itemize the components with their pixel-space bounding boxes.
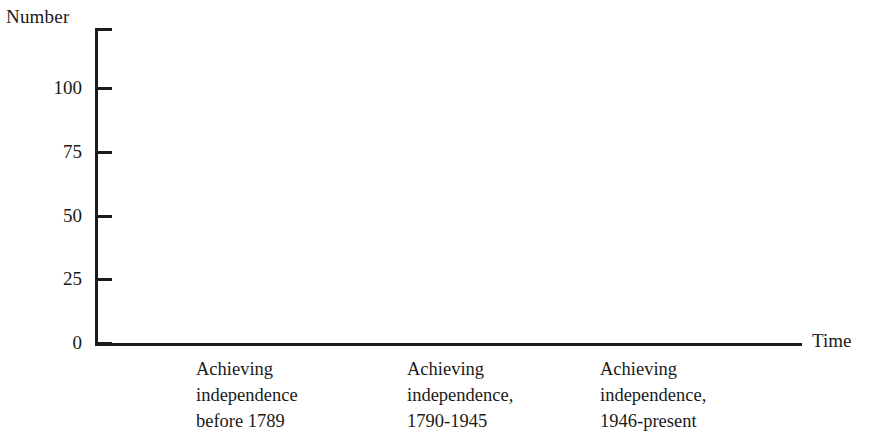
x-axis-category-label: Achieving independence, 1946-present bbox=[600, 356, 706, 434]
x-axis-category-label: Achieving independence before 1789 bbox=[196, 356, 298, 434]
x-axis-category-label: Achieving independence, 1790-1945 bbox=[407, 356, 513, 434]
bar-chart: Number Time 0255075100 234996 Achieving … bbox=[0, 0, 878, 442]
